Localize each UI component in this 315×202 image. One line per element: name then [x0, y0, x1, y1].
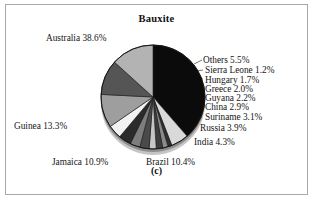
- pie-svg: [99, 41, 209, 159]
- figure-frame: Bauxite Australia 38.6% Guinea 13.3%: [5, 4, 308, 195]
- chart-title: Bauxite: [6, 13, 307, 24]
- pie-slice-layer: [101, 45, 205, 149]
- slice-label-china: China 2.9%: [205, 102, 249, 112]
- slice-label-others: Others 5.5%: [203, 55, 249, 65]
- slice-label-sierra-leone: Sierra Leone 1.2%: [205, 65, 274, 75]
- figure-caption: (c): [6, 165, 307, 176]
- slice-label-guinea: Guinea 13.3%: [14, 121, 67, 131]
- pie-chart: [99, 41, 209, 159]
- slice-label-australia: Australia 38.6%: [46, 33, 106, 43]
- slice-label-suriname: Suriname 3.1%: [205, 112, 262, 122]
- slice-label-russia: Russia 3.9%: [200, 123, 247, 133]
- slice-label-india: India 4.3%: [194, 137, 235, 147]
